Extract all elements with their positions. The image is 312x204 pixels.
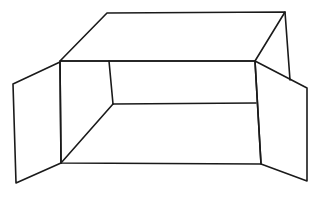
- inner-back-wall-bottom-edge: [113, 103, 256, 104]
- left-flap: [13, 62, 61, 183]
- right-flap: [255, 61, 307, 181]
- floor-left-diagonal: [61, 104, 113, 163]
- inner-back-wall-left-edge: [109, 61, 113, 104]
- top-face: [60, 12, 285, 61]
- front-opening: [60, 61, 261, 164]
- back-right-edge: [285, 12, 290, 80]
- box-drawing-canvas: open-box-line-drawing: [0, 0, 312, 204]
- open-box-drawing: [0, 0, 312, 204]
